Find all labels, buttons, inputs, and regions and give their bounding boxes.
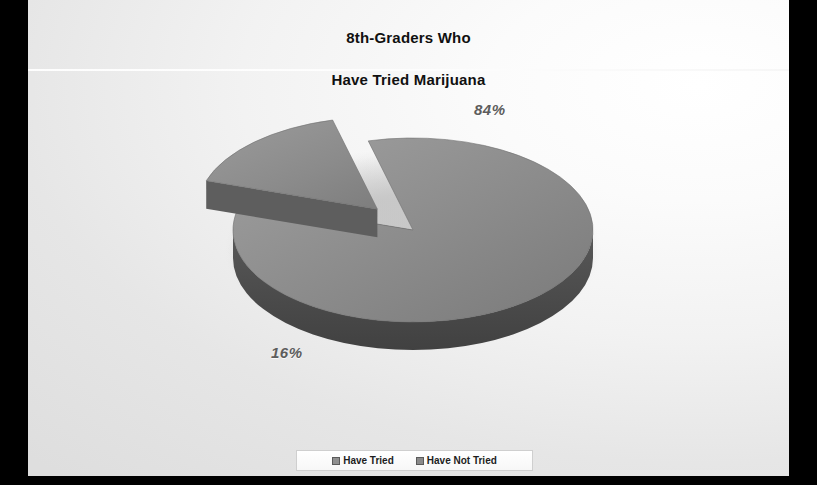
legend-item-have-not-tried[interactable]: Have Not Tried [416,456,497,466]
frame-left-border [0,0,28,485]
frame-bottom-border [0,476,817,485]
frame-right-border [789,0,817,485]
chart-slide: 8th-Graders Who Have Tried Marijuana [28,0,789,476]
legend-label-have-tried: Have Tried [343,456,394,466]
data-label-tried: 16% [271,344,303,361]
legend-label-have-not-tried: Have Not Tried [427,456,497,466]
pie-slice-have-tried [206,120,377,237]
legend-swatch-icon [416,457,424,465]
data-label-not-tried: 84% [474,101,506,118]
pie-chart-svg [28,0,789,476]
pie-chart: 84% 16% [28,0,789,476]
legend-item-have-tried[interactable]: Have Tried [332,456,394,466]
slide-frame: 8th-Graders Who Have Tried Marijuana [0,0,817,485]
legend-swatch-icon [332,457,340,465]
chart-legend: Have Tried Have Not Tried [296,450,533,471]
